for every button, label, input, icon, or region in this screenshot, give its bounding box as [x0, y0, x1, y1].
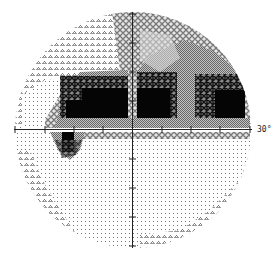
region-black-upper-left	[82, 88, 128, 118]
region-black-upper-center-right	[137, 88, 170, 118]
scale-label: 30°	[257, 125, 271, 134]
visual-field-greyscale-plot	[0, 0, 276, 254]
region-lower-crosshatch-strip	[60, 132, 250, 139]
region-grey-band-above-axis	[60, 118, 250, 128]
region-black-upper-left-ext	[66, 100, 86, 118]
region-black-upper-right	[215, 90, 245, 118]
